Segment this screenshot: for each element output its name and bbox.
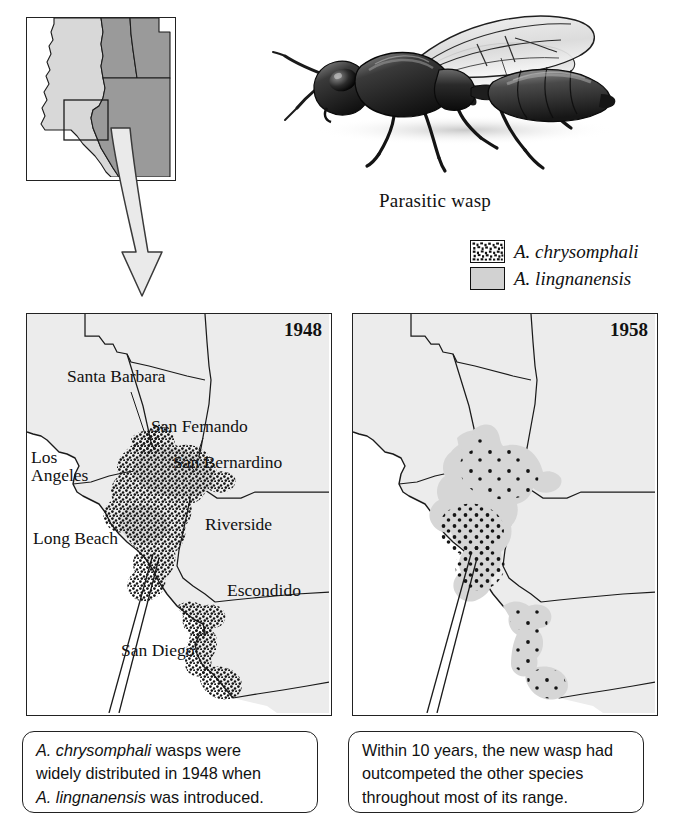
callout-pointer-1948	[27, 314, 329, 713]
callout-left-rest3: was introduced.	[146, 788, 264, 806]
stipple-swatch-icon	[470, 240, 505, 263]
map-panel-1948: 1948 Santa Barbara San Fernando San Bern…	[26, 313, 332, 716]
callout-1958: Within 10 years, the new wasp had outcom…	[348, 731, 644, 813]
callout-left-rest1: wasps were	[151, 741, 241, 759]
callout-pointer-1958	[353, 314, 655, 713]
wasp-caption: Parasitic wasp	[215, 190, 655, 212]
parasitic-wasp-illustration	[215, 8, 655, 188]
legend-item-lingnanensis: A. lingnanensis	[470, 265, 670, 292]
legend-label-chrysomphali: A. chrysomphali	[514, 241, 639, 263]
legend-item-chrysomphali: A. chrysomphali	[470, 238, 670, 265]
callout-left-species2: A. lingnanensis	[36, 788, 146, 806]
callout-left-line1: A. chrysomphali wasps were	[36, 739, 306, 762]
callout-1948: A. chrysomphali wasps were widely distri…	[22, 731, 318, 813]
gray-fill-swatch-icon	[470, 267, 505, 290]
callout-right-line2: outcompeted the other species	[362, 762, 632, 785]
legend-label-lingnanensis: A. lingnanensis	[514, 268, 631, 290]
callout-right-line1: Within 10 years, the new wasp had	[362, 739, 632, 762]
zoom-arrow-icon	[80, 120, 220, 320]
species-legend: A. chrysomphali A. lingnanensis	[470, 238, 670, 292]
map-panel-1958: 1958	[352, 313, 658, 716]
callout-left-line3: A. lingnanensis was introduced.	[36, 786, 306, 809]
callout-right-line3: throughout most of its range.	[362, 786, 632, 809]
callout-left-line2: widely distributed in 1948 when	[36, 762, 306, 785]
callout-left-species1: A. chrysomphali	[36, 741, 151, 759]
